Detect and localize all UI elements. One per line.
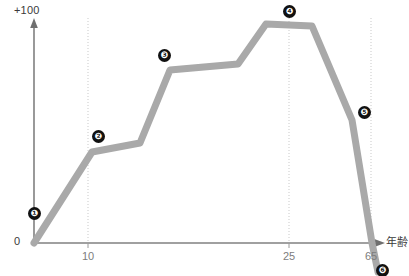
- data-point-marker-3: ❸: [158, 49, 171, 62]
- data-series-line: [34, 24, 378, 272]
- data-point-marker-2: ❷: [92, 130, 105, 143]
- data-point-marker-6: ❻: [376, 264, 389, 276]
- line-chart-graphic: [0, 0, 409, 276]
- y-axis-arrow-icon: [30, 18, 38, 28]
- chart-canvas: +100 0 年齢 10 25 65 ❶ ❷ ❸ ❹ ❺ ❻: [0, 0, 409, 276]
- x-tick-label-25: 25: [277, 250, 301, 262]
- y-axis-max-label: +100: [14, 4, 40, 16]
- axes-group: [30, 18, 385, 248]
- data-point-marker-1: ❶: [28, 207, 41, 220]
- gridlines-group: [88, 18, 371, 243]
- x-tick-label-65: 65: [359, 250, 383, 262]
- y-axis-zero-label: 0: [14, 235, 20, 247]
- data-point-marker-5: ❺: [358, 106, 371, 119]
- data-point-marker-4: ❹: [283, 5, 296, 18]
- x-tick-label-10: 10: [76, 250, 100, 262]
- x-axis-arrow-icon: [375, 239, 385, 247]
- x-axis-title: 年齢: [386, 233, 408, 249]
